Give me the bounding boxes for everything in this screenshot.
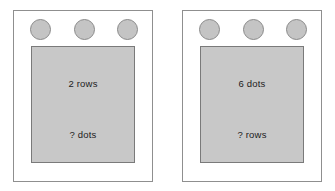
dot-icon <box>30 19 51 40</box>
right-panel-dot-row <box>199 17 307 41</box>
dot-icon <box>74 19 95 40</box>
dot-icon <box>199 19 220 40</box>
right-panel-card: 6 dots ? rows <box>200 46 304 163</box>
right-panel-card-top-label: 6 dots <box>201 79 303 89</box>
dot-icon <box>286 19 307 40</box>
left-panel-card: 2 rows ? dots <box>31 46 135 163</box>
left-panel-card-top-label: 2 rows <box>32 79 134 89</box>
left-panel-card-bottom-label: ? dots <box>32 130 134 140</box>
left-panel-dot-row <box>30 17 138 41</box>
left-panel: 2 rows ? dots <box>13 10 153 182</box>
dot-icon <box>243 19 264 40</box>
dot-icon <box>117 19 138 40</box>
right-panel: 6 dots ? rows <box>182 10 322 182</box>
right-panel-card-bottom-label: ? rows <box>201 130 303 140</box>
figure-canvas: 2 rows ? dots 6 dots ? rows <box>0 0 335 191</box>
